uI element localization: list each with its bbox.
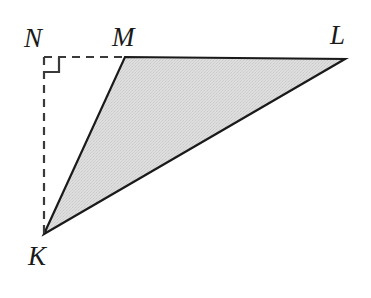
geometry-diagram: N M L K	[0, 0, 371, 298]
vertex-label-l: L	[330, 22, 345, 49]
vertex-label-m: M	[112, 24, 135, 51]
right-angle-marker-icon	[44, 57, 59, 72]
figure-canvas	[0, 0, 371, 298]
vertex-label-k: K	[28, 243, 46, 270]
vertex-label-n: N	[24, 25, 42, 52]
triangle-KML	[44, 57, 345, 234]
